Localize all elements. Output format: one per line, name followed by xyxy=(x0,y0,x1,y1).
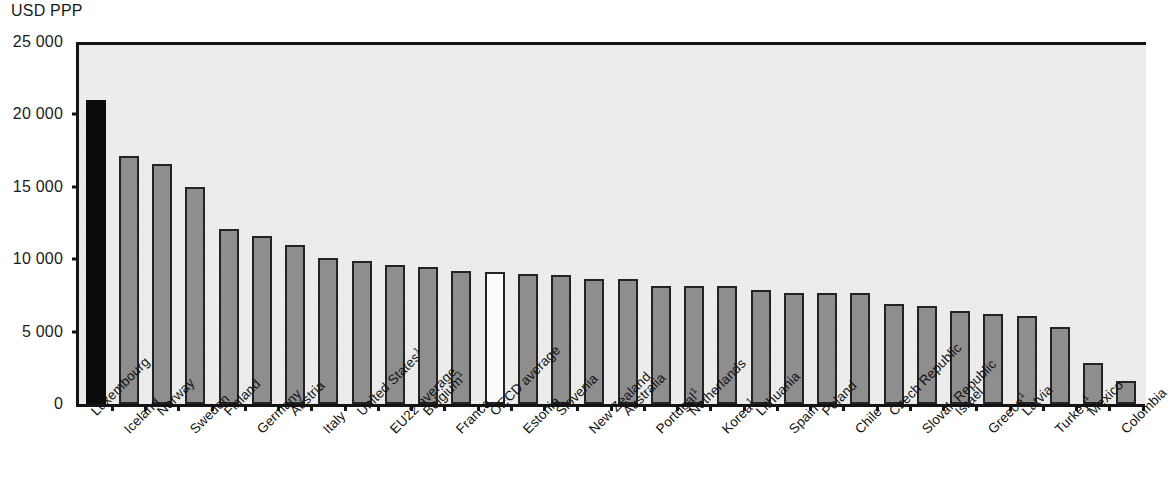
bar xyxy=(817,293,837,404)
y-tick-label: 25 000 xyxy=(13,33,63,51)
y-tick-label: 20 000 xyxy=(13,105,63,123)
bar xyxy=(884,304,904,404)
bar xyxy=(285,245,305,404)
bar xyxy=(86,100,106,404)
bars-container xyxy=(79,42,1143,404)
x-axis-category-label: Italy xyxy=(320,408,348,436)
y-axis-unit-label: USD PPP xyxy=(11,2,83,20)
bar xyxy=(185,187,205,404)
bar xyxy=(352,261,372,404)
bar xyxy=(551,275,571,404)
y-tick-label: 5 000 xyxy=(22,323,63,341)
bar xyxy=(684,286,704,404)
y-tick-label: 10 000 xyxy=(13,250,63,268)
x-axis-category-label: Chile xyxy=(852,404,885,437)
y-tick-label: 15 000 xyxy=(13,178,63,196)
x-axis-category-label: Spain xyxy=(786,401,821,436)
y-axis: 05 00010 00015 00020 00025 000 xyxy=(0,30,76,415)
bar xyxy=(219,229,239,404)
bar xyxy=(152,164,172,404)
x-axis-labels: LuxembourgIcelandNorwaySwedenFinlandGerm… xyxy=(0,404,1143,502)
bar xyxy=(751,290,771,404)
bar xyxy=(485,272,505,404)
